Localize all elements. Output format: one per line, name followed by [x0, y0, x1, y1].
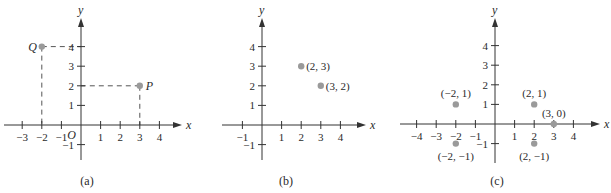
y-axis-label: y [77, 3, 84, 17]
y-tick-label: 1 [69, 99, 75, 111]
data-point [453, 140, 459, 146]
point-label: (3, 2) [326, 80, 350, 93]
y-tick-label: 2 [69, 80, 75, 92]
x-tick-label: 2 [531, 130, 537, 142]
x-axis-arrow-icon [591, 121, 600, 127]
point-label: (2, 1) [522, 87, 546, 100]
panel-caption: (b) [279, 174, 293, 188]
y-tick-label: 4 [69, 41, 75, 53]
x-tick-label: −2 [36, 131, 48, 143]
point-label: P [145, 79, 154, 93]
y-tick-label: 1 [483, 98, 489, 110]
data-point [137, 83, 143, 89]
point-label: (−2, −1) [438, 150, 475, 163]
y-axis-arrow-icon [78, 18, 84, 27]
y-tick-label: 3 [250, 60, 256, 72]
x-tick-label: 4 [157, 131, 163, 143]
x-axis-arrow-icon [357, 122, 366, 128]
y-tick-label: 3 [69, 60, 75, 72]
y-axis-label: y [258, 3, 265, 17]
x-tick-label: −2 [450, 130, 462, 142]
panel-c: xy−4−3−2−112344321−1(−2, 1)(2, 1)(3, 0)(… [400, 3, 610, 188]
data-point [531, 101, 537, 107]
x-tick-label: −3 [430, 130, 442, 142]
x-tick-label: 4 [338, 131, 344, 143]
y-tick-label: −1 [476, 138, 488, 150]
x-tick-label: 3 [137, 131, 143, 143]
origin-label: O [67, 128, 76, 142]
x-tick-label: 1 [279, 131, 285, 143]
y-tick-label: 3 [483, 59, 489, 71]
coordinate-plane-figure: xy−3−2−112344321−1OQP(a)xy−112344321−1(2… [0, 0, 611, 193]
data-point [453, 101, 459, 107]
panel-caption: (c) [490, 174, 503, 188]
x-tick-label: 1 [98, 131, 104, 143]
x-tick-label: 4 [571, 130, 577, 142]
data-point [551, 121, 557, 127]
data-point [318, 83, 324, 89]
x-axis-arrow-icon [173, 122, 182, 128]
x-tick-label: −3 [16, 131, 28, 143]
data-point [39, 43, 45, 49]
x-tick-label: 2 [117, 131, 123, 143]
y-tick-label: 1 [250, 99, 256, 111]
panel-b: xy−112344321−1(2, 3)(3, 2)(b) [222, 3, 376, 188]
point-label: (2, 3) [306, 60, 330, 73]
point-label: (3, 0) [542, 107, 566, 120]
point-label: (2, −1) [519, 150, 549, 163]
x-tick-label: 2 [298, 131, 304, 143]
data-point [298, 63, 304, 69]
y-tick-label: 4 [483, 40, 489, 52]
y-tick-label: −1 [243, 139, 255, 151]
x-tick-label: −4 [411, 130, 423, 142]
panel-caption: (a) [80, 174, 93, 188]
point-label: Q [28, 40, 37, 54]
point-label: (−2, 1) [441, 87, 471, 100]
x-tick-label: 3 [551, 130, 557, 142]
y-tick-label: 2 [483, 79, 489, 91]
y-tick-label: 4 [250, 41, 256, 53]
y-axis-label: y [491, 3, 498, 17]
data-point [531, 140, 537, 146]
panel-a: xy−3−2−112344321−1OQP(a) [4, 3, 192, 188]
x-tick-label: 1 [512, 130, 518, 142]
x-axis-label: x [603, 117, 610, 131]
y-axis-arrow-icon [492, 18, 498, 27]
x-axis-label: x [369, 118, 376, 132]
y-axis-arrow-icon [259, 18, 265, 27]
y-tick-label: 2 [250, 80, 256, 92]
x-axis-label: x [185, 118, 192, 132]
x-tick-label: 3 [318, 131, 324, 143]
